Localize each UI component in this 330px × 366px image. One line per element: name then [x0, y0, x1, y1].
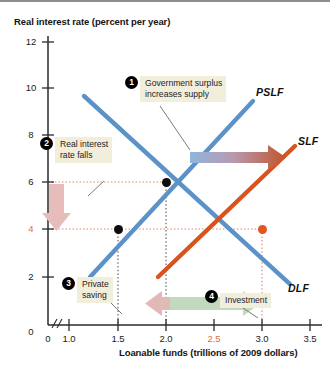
y-tick-8: 8: [24, 129, 38, 140]
x-tick-2-0: 2.0: [155, 333, 177, 344]
callout-badge-2: 2: [40, 137, 53, 150]
rate-falls-arrow: [42, 184, 71, 231]
curve-dlf: [84, 96, 290, 284]
point-new-equilibrium: [258, 225, 267, 234]
callout-real-interest-rate-falls: Real interest rate falls: [55, 137, 112, 163]
y-tick-10: 10: [24, 82, 38, 93]
x-tick-2-5: 2.5: [203, 333, 225, 344]
x-tick-3-0: 3.0: [251, 333, 273, 344]
callout-4-line-1: Investment: [225, 295, 267, 306]
y-tick-0: 0: [24, 326, 38, 337]
callout-investment: Investment: [220, 293, 271, 308]
callout-1-line-2: increases supply: [145, 89, 222, 100]
callout-1-line-1: Government surplus: [145, 78, 222, 89]
curve-label-pslf: PSLF: [256, 86, 284, 98]
y-tick-2: 2: [24, 271, 38, 282]
callout-badge-4: 4: [205, 290, 218, 303]
y-tick-12: 12: [24, 36, 38, 47]
x-tick-3-5: 3.5: [299, 333, 321, 344]
callout-badge-3: 3: [62, 277, 75, 290]
curve-pslf: [90, 101, 253, 277]
callout-private-saving: Private saving: [77, 277, 113, 303]
x-tick-1-0: 1.0: [58, 333, 80, 344]
y-tick-6: 6: [24, 176, 38, 187]
y-tick-4: 4: [24, 223, 38, 234]
curve-slf: [158, 146, 295, 277]
callout-government-surplus: Government surplus increases supply: [140, 76, 226, 102]
supply-shift-arrow: [190, 145, 286, 170]
callout-3-line-2: saving: [82, 290, 109, 301]
point-private-saving: [114, 225, 123, 234]
callout-leader-lines: [88, 106, 258, 318]
callout-3-line-1: Private: [82, 279, 109, 290]
point-initial-equilibrium: [162, 178, 171, 187]
x-tick-0: 0: [37, 333, 59, 344]
callout-2-line-1: Real interest: [60, 139, 108, 150]
loanable-funds-chart: Real interest rate (percent per year) Lo…: [0, 0, 330, 366]
callout-2-line-2: rate falls: [60, 150, 108, 161]
callout-badge-1: 1: [125, 76, 138, 89]
x-tick-1-5: 1.5: [107, 333, 129, 344]
curve-label-slf: SLF: [298, 135, 318, 147]
curve-label-dlf: DLF: [288, 282, 309, 294]
